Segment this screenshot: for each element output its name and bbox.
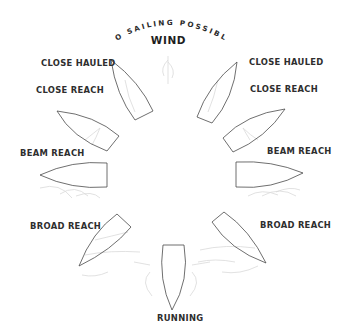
- wind-label: WIND: [0, 34, 337, 46]
- boat-running: [134, 245, 210, 310]
- luffing-sail-icon: [163, 56, 174, 84]
- boat-broad-reach-right: [198, 212, 266, 273]
- boat-close-hauled-right: [197, 62, 237, 123]
- boat-beam-reach-right: [236, 162, 303, 196]
- label-close-reach-right: CLOSE REACH: [250, 84, 318, 94]
- label-beam-reach-left: BEAM REACH: [20, 148, 85, 158]
- label-close-hauled-right: CLOSE HAULED: [249, 57, 324, 67]
- points-of-sail-diagram: NO SAILING POSSIBLE: [0, 0, 337, 324]
- label-close-reach-left: CLOSE REACH: [36, 85, 104, 95]
- label-beam-reach-right: BEAM REACH: [267, 146, 332, 156]
- label-broad-reach-right: BROAD REACH: [260, 220, 331, 230]
- label-broad-reach-left: BROAD REACH: [30, 221, 101, 231]
- label-close-hauled-left: CLOSE HAULED: [41, 58, 116, 68]
- boat-beam-reach-left: [40, 163, 107, 199]
- boat-close-hauled-left: [111, 60, 153, 120]
- label-running: RUNNING: [157, 313, 203, 323]
- boat-drawings: NO SAILING POSSIBLE: [0, 0, 337, 324]
- boat-close-reach-left: [57, 111, 119, 151]
